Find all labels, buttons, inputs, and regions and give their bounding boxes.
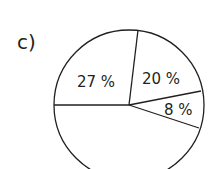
slice-label-8: 8 %: [164, 101, 193, 119]
pie-outline: [54, 30, 204, 169]
pie-chart: 27 % 20 % 8 %: [0, 0, 210, 169]
slice-label-27: 27 %: [77, 73, 115, 91]
slice-label-20: 20 %: [142, 70, 180, 88]
